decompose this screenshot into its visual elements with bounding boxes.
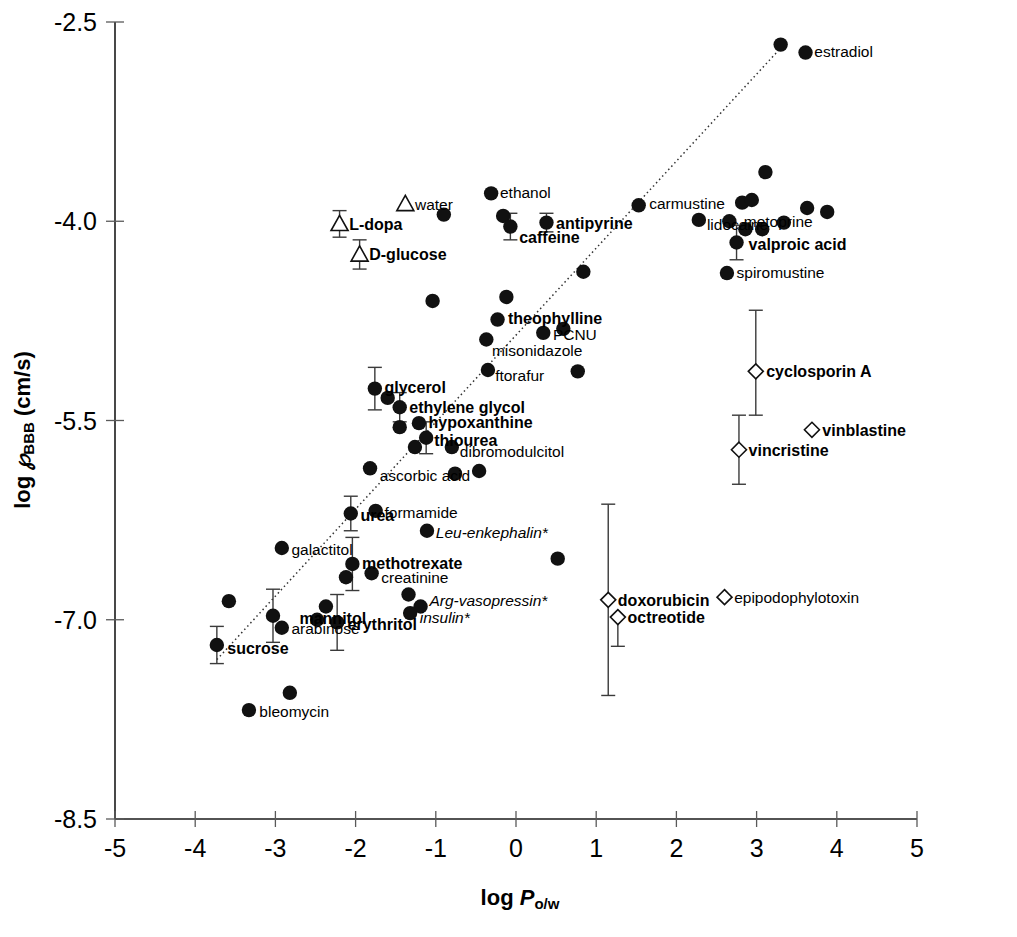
data-point-filled-circle: [576, 265, 590, 279]
x-axis-title-prefix: log: [481, 885, 520, 910]
data-point-label: arabinose: [291, 620, 359, 637]
plot-canvas: -2.5-4.0-5.5-7.0-8.5-5-4-3-2-1012345 est…: [0, 0, 1017, 937]
data-point-filled-circle: [393, 420, 407, 434]
data-point-label: L-dopa: [349, 216, 402, 233]
svg-text:log ℘BBB (cm/s): log ℘BBB (cm/s): [10, 351, 37, 509]
data-point-open-triangle: [397, 195, 414, 210]
data-point-label: misonidazole: [492, 342, 582, 359]
x-axis-title-symbol: P: [520, 885, 535, 910]
data-point-label: vinblastine: [822, 422, 906, 439]
y-axis-title: log ℘BBB (cm/s): [10, 351, 37, 509]
data-point-filled-circle: [820, 205, 834, 219]
data-point-label: water: [414, 196, 453, 213]
data-point-open-diamond: [804, 422, 819, 437]
data-point-label: lidocaine: [707, 216, 768, 233]
data-point-label: formamide: [384, 504, 457, 521]
y-axis-tick-label: -7.0: [54, 606, 97, 634]
x-axis-tick-label: 5: [910, 834, 924, 862]
data-point-filled-circle: [729, 235, 743, 249]
y-axis-tick-label: -8.5: [54, 805, 97, 833]
data-point-open-triangle: [331, 215, 348, 230]
x-axis-tick-label: -1: [425, 834, 447, 862]
data-point-filled-circle: [773, 37, 787, 51]
data-point-label: theophylline: [508, 310, 602, 327]
data-point-filled-circle: [344, 506, 358, 520]
data-point-filled-circle: [472, 464, 486, 478]
data-labels-layer: estradiolethanolcarmustinemetoprinelidoc…: [227, 43, 906, 720]
data-point-label: ethanol: [500, 184, 551, 201]
x-axis-tick-label: -4: [184, 834, 206, 862]
data-point-label: ascorbic acid: [380, 467, 470, 484]
y-axis-title-units: (cm/s): [10, 351, 35, 422]
data-point-filled-circle: [536, 326, 550, 340]
data-point-label: caffeine: [519, 229, 580, 246]
data-point-label: creatinine: [381, 569, 448, 586]
data-point-filled-circle: [393, 400, 407, 414]
data-point-filled-circle: [758, 165, 772, 179]
data-point-filled-circle: [490, 312, 504, 326]
data-point-label: Arg-vasopressin*: [428, 592, 548, 609]
x-axis-tick-label: 3: [750, 834, 764, 862]
data-point-filled-circle: [266, 609, 280, 623]
data-point-label: Leu-enkephalin*: [436, 524, 549, 541]
svg-text:log Po/w: log Po/w: [481, 885, 560, 912]
x-axis-title: log Po/w: [481, 885, 560, 912]
data-point-filled-circle: [401, 587, 415, 601]
data-point-label: dibromodulcitol: [460, 443, 564, 460]
data-point-label: spiromustine: [737, 264, 825, 281]
data-point-label: carmustine: [649, 195, 725, 212]
data-point-filled-circle: [571, 364, 585, 378]
data-point-label: ftorafur: [495, 367, 544, 384]
data-point-label: epipodophylotoxin: [734, 589, 859, 606]
data-point-filled-circle: [222, 594, 236, 608]
x-axis-tick-label: -2: [344, 834, 366, 862]
data-point-filled-circle: [632, 198, 646, 212]
data-point-open-triangle: [351, 246, 368, 261]
data-point-filled-circle: [425, 294, 439, 308]
data-point-open-diamond: [717, 590, 732, 605]
data-point-open-diamond: [748, 364, 763, 379]
data-point-label: hypoxanthine: [429, 414, 533, 431]
data-point-filled-circle: [419, 431, 433, 445]
data-point-label: glycerol: [384, 379, 445, 396]
data-point-label: valproic acid: [749, 236, 847, 253]
data-point-label: vincristine: [749, 442, 829, 459]
data-point-filled-circle: [539, 215, 553, 229]
x-axis-tick-label: 2: [669, 834, 683, 862]
y-axis-tick-label: -5.5: [54, 407, 97, 435]
data-point-label: D-glucose: [369, 246, 446, 263]
data-point-label: galactitol: [291, 541, 352, 558]
y-axis-title-prefix: log: [10, 470, 35, 509]
y-axis-tick-label: -4.0: [54, 207, 97, 235]
data-point-open-diamond: [610, 610, 625, 625]
data-point-filled-circle: [692, 213, 706, 227]
data-point-filled-circle: [242, 703, 256, 717]
data-point-filled-circle: [503, 219, 517, 233]
data-point-filled-circle: [420, 524, 434, 538]
data-point-filled-circle: [499, 290, 513, 304]
data-point-filled-circle: [720, 266, 734, 280]
data-point-filled-circle: [339, 570, 353, 584]
y-axis-tick-label: -2.5: [54, 8, 97, 36]
error-bar: [749, 310, 763, 415]
data-point-filled-circle: [412, 416, 426, 430]
x-axis-tick-label: -3: [264, 834, 286, 862]
data-point-filled-circle: [368, 381, 382, 395]
data-point-open-diamond: [601, 592, 616, 607]
data-point-filled-circle: [798, 45, 812, 59]
bbb-permeability-scatter-chart: -2.5-4.0-5.5-7.0-8.5-5-4-3-2-1012345 est…: [0, 0, 1017, 937]
data-point-filled-circle: [345, 557, 359, 571]
data-point-label: bleomycin: [259, 703, 329, 720]
data-point-label: insulin*: [420, 609, 471, 626]
data-point-filled-circle: [283, 686, 297, 700]
x-axis-title-subscript: o/w: [534, 895, 559, 912]
data-point-label: sucrose: [227, 640, 288, 657]
data-point-open-diamond: [731, 442, 746, 457]
x-axis-tick-label: 0: [509, 834, 523, 862]
data-point-label: PCNU: [553, 326, 597, 343]
data-point-filled-circle: [275, 541, 289, 555]
x-axis-tick-label: -5: [104, 834, 126, 862]
x-axis-tick-label: 1: [589, 834, 603, 862]
data-point-label: estradiol: [814, 43, 873, 60]
data-point-filled-circle: [481, 363, 495, 377]
